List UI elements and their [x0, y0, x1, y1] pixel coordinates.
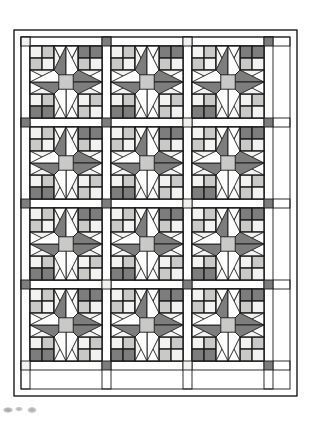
sashing-corner-square — [102, 118, 111, 127]
patch-square — [111, 337, 123, 349]
patch-square — [159, 208, 171, 220]
sashing-corner-square — [102, 199, 111, 208]
patch-square — [171, 127, 183, 139]
patch-square — [240, 289, 252, 301]
star-block-4 — [111, 127, 183, 199]
patch-square — [111, 175, 123, 187]
patch-square — [30, 256, 42, 268]
patch-square — [123, 301, 135, 313]
patch-square — [159, 175, 171, 187]
patch-square — [204, 106, 216, 118]
patch-square — [90, 349, 102, 361]
patch-square — [171, 289, 183, 301]
patch-square — [90, 46, 102, 58]
sashing-corner-square — [21, 118, 30, 127]
patch-square — [78, 208, 90, 220]
patch-square — [123, 187, 135, 199]
patch-square — [192, 46, 204, 58]
patch-square — [30, 187, 42, 199]
patch-square — [30, 46, 42, 58]
patch-square — [252, 106, 264, 118]
star-centre-square — [140, 156, 154, 170]
patch-square — [171, 208, 183, 220]
patch-square — [78, 256, 90, 268]
patch-square — [123, 175, 135, 187]
star-block-10 — [111, 289, 183, 361]
patch-square — [192, 106, 204, 118]
patch-square — [90, 208, 102, 220]
patch-square — [30, 208, 42, 220]
patch-square — [78, 187, 90, 199]
patch-square — [159, 46, 171, 58]
patch-square — [30, 58, 42, 70]
sashing-corner-square — [264, 199, 273, 208]
patch-square — [192, 208, 204, 220]
patch-square — [90, 58, 102, 70]
patch-square — [240, 106, 252, 118]
patch-square — [171, 106, 183, 118]
patch-square — [42, 127, 54, 139]
patch-square — [42, 349, 54, 361]
patch-square — [30, 349, 42, 361]
patch-square — [30, 139, 42, 151]
patch-square — [240, 337, 252, 349]
sashing-corner-square — [183, 199, 192, 208]
patch-square — [252, 94, 264, 106]
patch-square — [192, 256, 204, 268]
sashing-strip-vertical — [102, 37, 111, 389]
sashing-strip-horizontal — [21, 37, 290, 46]
patch-square — [252, 175, 264, 187]
patch-square — [192, 289, 204, 301]
star-block-1 — [111, 46, 183, 118]
patch-square — [42, 139, 54, 151]
patch-square — [42, 220, 54, 232]
patch-square — [78, 139, 90, 151]
patch-square — [171, 139, 183, 151]
star-centre-square — [221, 156, 235, 170]
patch-square — [123, 58, 135, 70]
patch-square — [159, 220, 171, 232]
patch-square — [204, 187, 216, 199]
patch-square — [252, 139, 264, 151]
patch-square — [192, 139, 204, 151]
patch-square — [240, 268, 252, 280]
star-block-0 — [30, 46, 102, 118]
sashing-corner-square — [21, 361, 30, 370]
patch-square — [30, 106, 42, 118]
star-block-2 — [192, 46, 264, 118]
patch-square — [111, 46, 123, 58]
sashing-corner-square — [102, 361, 111, 370]
patch-square — [78, 268, 90, 280]
patch-square — [42, 106, 54, 118]
patch-square — [159, 289, 171, 301]
star-block-9 — [30, 289, 102, 361]
patch-square — [252, 268, 264, 280]
patch-square — [123, 139, 135, 151]
star-centre-square — [59, 75, 73, 89]
patch-square — [111, 58, 123, 70]
patch-square — [123, 289, 135, 301]
sashing-corner-square — [264, 280, 273, 289]
patch-square — [90, 94, 102, 106]
patch-square — [240, 187, 252, 199]
patch-square — [78, 127, 90, 139]
patch-square — [30, 94, 42, 106]
patch-square — [111, 94, 123, 106]
patch-square — [252, 289, 264, 301]
patch-square — [123, 106, 135, 118]
patch-square — [252, 58, 264, 70]
star-block-7 — [111, 208, 183, 280]
sashing-corner-square — [21, 280, 30, 289]
patch-square — [204, 301, 216, 313]
patch-square — [30, 337, 42, 349]
patch-square — [78, 349, 90, 361]
patch-square — [42, 301, 54, 313]
patch-square — [42, 268, 54, 280]
patch-square — [204, 208, 216, 220]
patch-square — [204, 349, 216, 361]
sashing-strip-vertical — [264, 37, 273, 389]
patch-square — [111, 349, 123, 361]
patch-square — [42, 208, 54, 220]
patch-square — [78, 106, 90, 118]
sashing-corner-square — [183, 280, 192, 289]
